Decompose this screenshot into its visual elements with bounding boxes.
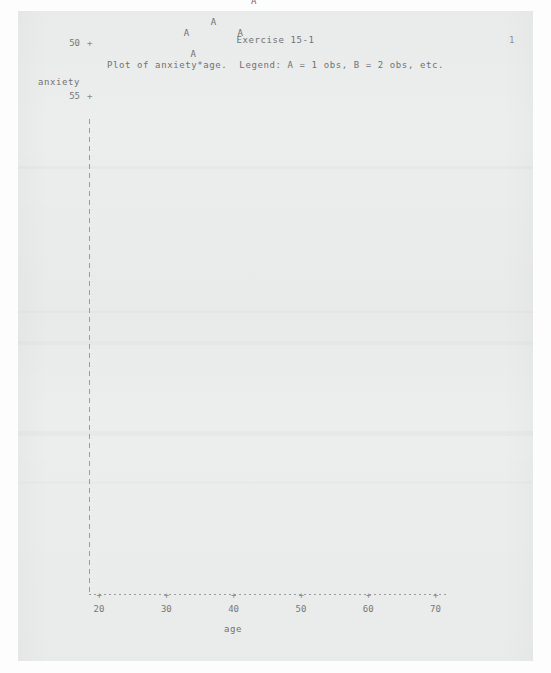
y-axis-dash (89, 506, 90, 511)
x-axis-tick-mark: + (433, 595, 438, 596)
y-axis-dash (89, 569, 90, 574)
y-axis-dash (89, 524, 90, 529)
y-axis-dash (89, 434, 90, 439)
y-axis-dash (89, 452, 90, 457)
y-axis-dash (89, 308, 90, 313)
y-axis-dash (89, 317, 90, 322)
y-axis-dash (89, 164, 90, 169)
x-axis-tick-label: 60 (353, 609, 383, 610)
x-axis-line (89, 594, 446, 595)
y-axis-dash (89, 398, 90, 403)
x-axis-tick-mark: + (298, 595, 303, 596)
y-axis-dash (89, 371, 90, 376)
y-axis-dash (89, 578, 90, 583)
y-axis-dash (89, 137, 90, 142)
y-axis-dash (89, 200, 90, 205)
y-axis-dash (89, 479, 90, 484)
y-axis-dash (89, 380, 90, 385)
x-axis-tick-mark: + (164, 595, 169, 596)
scatter-plot: anxiety age +10+15+20+25+30+35+40+45+50+… (18, 11, 533, 661)
y-axis-dash (89, 128, 90, 133)
y-axis-dash (89, 362, 90, 367)
y-axis-tick-mark: + (87, 43, 92, 44)
x-axis-tick-label: 30 (151, 609, 181, 610)
x-axis-tick-label: 50 (286, 609, 316, 610)
y-axis-dash (89, 272, 90, 277)
y-axis-dash (89, 407, 90, 412)
y-axis-dash (89, 461, 90, 466)
x-axis-tick-mark: + (366, 595, 371, 596)
x-axis-label: age (18, 624, 448, 634)
y-axis-dash (89, 389, 90, 394)
y-axis-dash (89, 245, 90, 250)
y-axis-dash (89, 119, 90, 124)
x-axis-tick-label: 20 (84, 609, 114, 610)
y-axis-dash (89, 281, 90, 286)
y-axis-dash (89, 209, 90, 214)
y-axis-tick-mark: + (87, 96, 92, 97)
y-axis-dash (89, 560, 90, 565)
y-axis-dash (89, 263, 90, 268)
data-point-marker: A (184, 33, 189, 34)
data-point-marker: A (191, 54, 196, 55)
y-axis-dash (89, 173, 90, 178)
data-point-marker: A (238, 33, 243, 34)
y-axis-dash (89, 218, 90, 223)
y-axis-dash (89, 146, 90, 151)
y-axis-dash (89, 443, 90, 448)
y-axis-dash (89, 182, 90, 187)
y-axis-dash (89, 299, 90, 304)
y-axis-dash (89, 425, 90, 430)
y-axis-dash (89, 254, 90, 259)
x-axis-tick-label: 70 (421, 609, 451, 610)
y-axis-dash (89, 290, 90, 295)
y-axis-dash (89, 335, 90, 340)
screenshot-page: Exercise 15-1 1 Plot of anxiety*age. Leg… (0, 0, 551, 673)
y-axis-dash (89, 227, 90, 232)
y-axis-dash (89, 497, 90, 502)
data-point-marker: A (251, 1, 256, 2)
x-axis-tick-mark: + (231, 595, 236, 596)
y-axis-dash (89, 470, 90, 475)
y-axis-dash (89, 416, 90, 421)
y-axis-dash (89, 488, 90, 493)
y-axis-dash (89, 587, 90, 592)
scanned-paper-sheet: Exercise 15-1 1 Plot of anxiety*age. Leg… (18, 11, 533, 661)
y-axis-dash (89, 326, 90, 331)
y-axis-dash (89, 542, 90, 547)
y-axis-dash (89, 551, 90, 556)
y-axis-tick-label: 55 (44, 96, 80, 97)
y-axis-dash (89, 353, 90, 358)
y-axis-dash (89, 344, 90, 349)
y-axis-dash (89, 155, 90, 160)
y-axis-tick-label: 50 (44, 43, 80, 44)
y-axis-label: anxiety (38, 77, 80, 87)
y-axis-dash (89, 236, 90, 241)
y-axis-dash (89, 533, 90, 538)
y-axis-dash (89, 515, 90, 520)
data-point-marker: A (211, 22, 216, 23)
y-axis-dash (89, 191, 90, 196)
x-axis-tick-label: 40 (219, 609, 249, 610)
x-axis-tick-mark: + (97, 595, 102, 596)
